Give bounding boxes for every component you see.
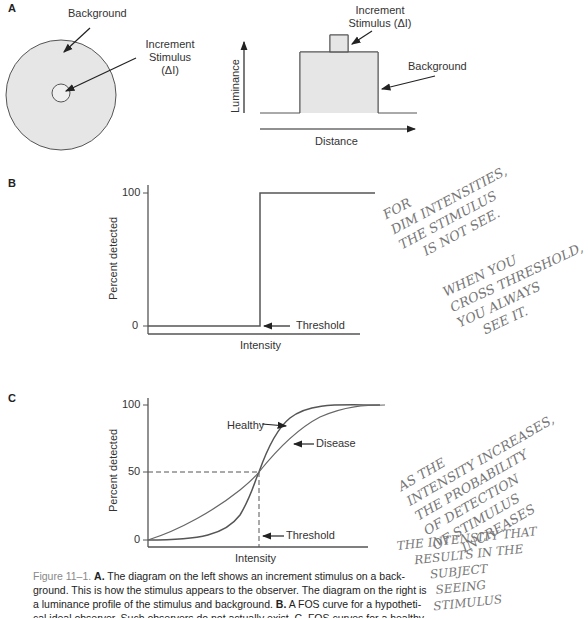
a-right-stimulus-line2: Stimulus (ΔI) xyxy=(340,17,420,30)
b-x-axis-label: Intensity xyxy=(240,339,281,351)
caption-line-3: a luminance profile of the stimulus and … xyxy=(33,597,427,611)
c-tick-0: 0 xyxy=(134,533,140,545)
a-right-background-label: Background xyxy=(408,60,467,72)
panel-b-label: B xyxy=(8,177,16,189)
a-right-y-axis-label: Luminance xyxy=(229,59,241,113)
a-right-stimulus-line1: Increment xyxy=(340,4,420,17)
a-left-stimulus-line2: Stimulus xyxy=(140,51,200,64)
c-x-axis-label: Intensity xyxy=(235,552,276,564)
c-healthy-label: Healthy xyxy=(227,419,264,431)
figure-number: Figure 11–1. xyxy=(33,570,91,582)
figure-caption: Figure 11–1. A. The diagram on the left … xyxy=(33,569,427,618)
b-y-axis-label: Percent detected xyxy=(107,217,119,300)
a-left-stimulus-line1: Increment xyxy=(140,38,200,51)
b-threshold-label: Threshold xyxy=(296,319,345,331)
a-right-x-axis-label: Distance xyxy=(315,135,358,147)
b-tick-100: 100 xyxy=(122,186,140,198)
caption-line-2: ground. This is how the stimulus appears… xyxy=(33,583,427,597)
c-y-axis-label: Percent detected xyxy=(107,429,119,512)
a-left-stimulus-label: Increment Stimulus (ΔI) xyxy=(140,38,200,77)
a-right-stimulus-label: Increment Stimulus (ΔI) xyxy=(340,4,420,30)
a-left-background-label: Background xyxy=(68,7,127,19)
caption-line-1: Figure 11–1. A. The diagram on the left … xyxy=(33,569,427,583)
panel-c-label: C xyxy=(8,392,16,404)
caption-line-4: cal ideal observer. Such observers do no… xyxy=(33,611,427,618)
c-tick-100: 100 xyxy=(122,398,140,410)
c-disease-label: Disease xyxy=(316,437,356,449)
b-tick-0: 0 xyxy=(132,319,138,331)
a-left-stimulus-line3: (ΔI) xyxy=(140,64,200,77)
c-tick-50: 50 xyxy=(128,465,140,477)
c-threshold-label: Threshold xyxy=(286,529,335,541)
